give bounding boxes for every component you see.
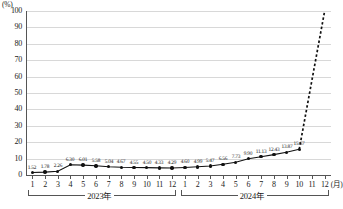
- data-point-marker: [81, 163, 84, 166]
- data-point-marker: [132, 166, 135, 169]
- data-point-marker: [196, 165, 199, 168]
- x-axis-tickmark: [83, 176, 84, 179]
- chart-container: (%) 1009080706050403020100 1.521.782.266…: [0, 0, 343, 209]
- x-axis-tickmark: [96, 176, 97, 179]
- x-axis-tickmark: [299, 176, 300, 179]
- data-point-marker: [94, 164, 97, 167]
- x-axis-tickmark: [198, 176, 199, 179]
- x-axis-tickmark: [70, 176, 71, 179]
- forecast-series-dashed-line: [299, 11, 324, 149]
- x-axis-tickmark: [236, 176, 237, 179]
- x-axis-tickmark: [312, 176, 313, 179]
- x-axis-tickmark: [159, 176, 160, 179]
- data-point-marker: [43, 170, 46, 173]
- data-point-marker: [221, 163, 224, 166]
- x-axis-tickmark: [325, 176, 326, 179]
- data-point-label: 15.67: [290, 140, 308, 146]
- x-axis-tickmark: [45, 176, 46, 179]
- data-point-label: 2.26: [49, 162, 67, 168]
- x-axis-tickmark: [147, 176, 148, 179]
- x-axis-tickmark: [32, 176, 33, 179]
- data-point-marker: [272, 153, 275, 156]
- x-axis-tickmark: [109, 176, 110, 179]
- data-point-marker: [183, 166, 186, 169]
- x-axis-tickmark: [223, 176, 224, 179]
- x-axis-tickmark: [172, 176, 173, 179]
- x-axis-tickmark: [274, 176, 275, 179]
- data-point-marker: [170, 166, 173, 169]
- data-point-marker: [158, 166, 161, 169]
- data-point-marker: [120, 166, 123, 169]
- year-group-label: 2023年: [85, 192, 114, 201]
- x-axis-tickmark: [185, 176, 186, 179]
- data-point-marker: [209, 164, 212, 167]
- x-axis-tickmark: [210, 176, 211, 179]
- x-axis-tickmark: [134, 176, 135, 179]
- x-axis-tickmark: [261, 176, 262, 179]
- year-group-label: 2024年: [238, 192, 267, 201]
- x-axis-tickmark: [121, 176, 122, 179]
- data-point-marker: [298, 148, 301, 151]
- x-axis-tickmark: [58, 176, 59, 179]
- x-axis-tickmark: [248, 176, 249, 179]
- x-axis-tickmark: [287, 176, 288, 179]
- x-axis-unit-label: (月): [331, 180, 343, 189]
